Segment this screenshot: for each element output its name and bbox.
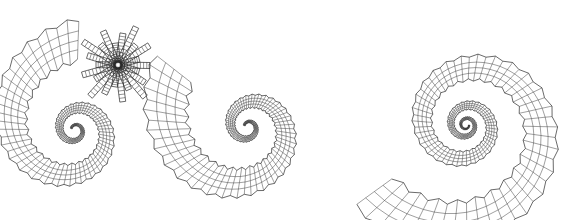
planispiral-shell-model [357,54,558,220]
wireframe-canvas [0,0,566,220]
open-whorl-shell-model [143,56,296,198]
shell-wireframe-figure [0,0,566,220]
spiked-shell-model [0,20,151,187]
